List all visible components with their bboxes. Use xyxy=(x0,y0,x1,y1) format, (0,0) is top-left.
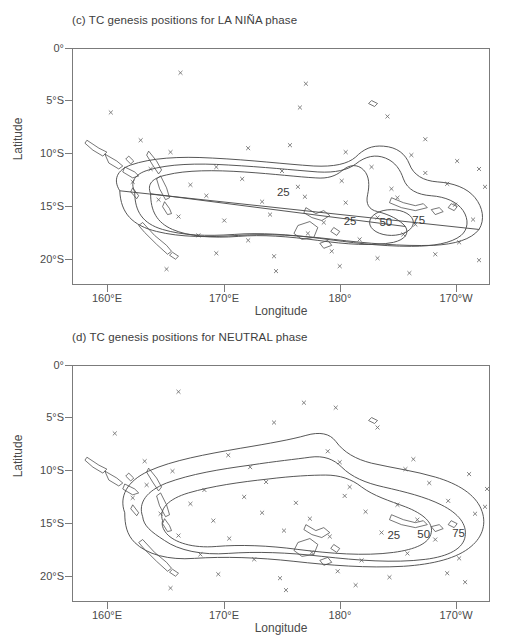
svg-text:50: 50 xyxy=(380,217,393,229)
panel-d-plot-area: 25 50 75 xyxy=(72,365,490,602)
panel-d-ytick-mark-3 xyxy=(65,523,72,524)
panel-d-xtick-3: 170°W xyxy=(426,609,486,621)
panel-c-ytick-3: 15°S xyxy=(18,200,64,212)
panel-c-xtick-mark-0 xyxy=(107,285,108,292)
panel-d-contour-labels: 25 50 75 xyxy=(387,527,464,541)
panel-c-xtick-0: 160°E xyxy=(77,292,137,304)
panel-la-nina: (c) TC genesis positions for LA NIÑA pha… xyxy=(0,0,512,317)
panel-c-xlabel: Longitude xyxy=(206,304,356,318)
panel-c-xtick-mark-1 xyxy=(224,285,225,292)
panel-d-xtick-mark-3 xyxy=(456,602,457,609)
svg-text:25: 25 xyxy=(387,529,400,541)
panel-d-xtick-2: 180° xyxy=(310,609,370,621)
panel-c-contour-75 xyxy=(149,166,413,245)
panel-d-xlabel: Longitude xyxy=(206,621,356,635)
panel-c-canvas: 25 25 50 75 xyxy=(73,49,489,284)
panel-neutral: (d) TC genesis positions for NEUTRAL pha… xyxy=(0,317,512,634)
panel-c-ytick-4: 20°S xyxy=(18,253,64,265)
panel-d-ytick-3: 15°S xyxy=(18,517,64,529)
panel-c-ylabel: Latitude xyxy=(11,99,25,179)
panel-d-ytick-mark-2 xyxy=(65,470,72,471)
svg-text:75: 75 xyxy=(412,214,425,226)
panel-d-ytick-0: 0° xyxy=(18,359,64,371)
panel-d-ytick-mark-4 xyxy=(65,576,72,577)
panel-c-title: (c) TC genesis positions for LA NIÑA pha… xyxy=(72,14,297,26)
panel-c-ytick-mark-1 xyxy=(65,100,72,101)
panel-c-ytick-mark-0 xyxy=(65,48,72,49)
panel-c-ytick-0: 0° xyxy=(18,42,64,54)
panel-c-ytick-mark-3 xyxy=(65,206,72,207)
panel-c-contour-labels: 25 25 50 75 xyxy=(277,186,425,229)
panel-d-xtick-mark-1 xyxy=(224,602,225,609)
panel-c-plot-area: 25 25 50 75 xyxy=(72,48,490,285)
panel-d-ytick-4: 20°S xyxy=(18,570,64,582)
panel-d-xtick-mark-0 xyxy=(107,602,108,609)
panel-c-ytick-mark-2 xyxy=(65,153,72,154)
panel-c-xtick-2: 180° xyxy=(310,292,370,304)
panel-c-xtick-mark-3 xyxy=(456,285,457,292)
panel-d-xtick-0: 160°E xyxy=(77,609,137,621)
panel-d-xtick-1: 170°E xyxy=(194,609,254,621)
panel-c-xtick-3: 170°W xyxy=(426,292,486,304)
panel-d-canvas: 25 50 75 xyxy=(73,366,489,601)
panel-c-xtick-1: 170°E xyxy=(194,292,254,304)
panel-c-xtick-mark-2 xyxy=(340,285,341,292)
panel-d-ytick-mark-1 xyxy=(65,417,72,418)
svg-text:25: 25 xyxy=(344,216,357,228)
panel-c-coastlines xyxy=(85,101,457,260)
panel-d-ytick-mark-0 xyxy=(65,365,72,366)
panel-d-contour-75 xyxy=(162,475,432,554)
panel-d-xtick-mark-2 xyxy=(340,602,341,609)
panel-d-ylabel: Latitude xyxy=(11,416,25,496)
svg-text:50: 50 xyxy=(417,528,430,540)
svg-text:75: 75 xyxy=(452,527,465,539)
panel-c-ytick-mark-4 xyxy=(65,259,72,260)
svg-text:25: 25 xyxy=(277,186,290,198)
panel-d-title: (d) TC genesis positions for NEUTRAL pha… xyxy=(72,331,308,343)
